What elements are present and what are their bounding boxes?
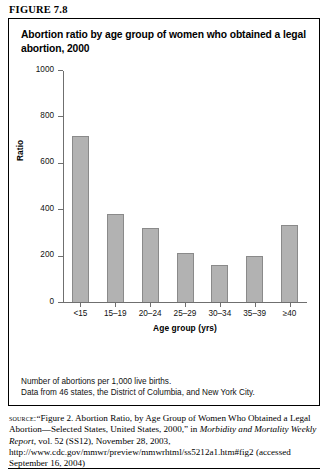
x-axis-tick-label: 25–29 bbox=[174, 309, 197, 318]
y-axis-tick-label: 800 bbox=[40, 111, 54, 120]
bar bbox=[211, 265, 228, 302]
bar bbox=[72, 136, 89, 302]
y-axis-tick: 0 bbox=[58, 302, 63, 303]
y-axis-tick: 200 bbox=[58, 256, 63, 257]
chart-plot-area: Ratio 02004006008001000 <1515–1920–2425–… bbox=[17, 65, 313, 333]
x-axis-tick bbox=[115, 303, 116, 307]
x-axis-tick bbox=[290, 303, 291, 307]
x-axis-tick bbox=[185, 303, 186, 307]
bar bbox=[142, 228, 159, 302]
y-axis-tick-label: 0 bbox=[49, 297, 54, 306]
bar bbox=[246, 256, 263, 302]
bar bbox=[107, 214, 124, 302]
bar bbox=[281, 225, 298, 302]
x-axis-tick-label: 30–34 bbox=[208, 309, 231, 318]
source-lead: source: bbox=[9, 414, 36, 423]
figure-label: FIGURE 7.8 bbox=[9, 3, 320, 16]
x-axis-title: Age group (yrs) bbox=[63, 323, 307, 333]
y-axis-tick: 800 bbox=[58, 116, 63, 117]
x-axis-tick-label: ≥40 bbox=[283, 309, 297, 318]
source-citation: source:“Figure 2. Abortion Ratio, by Age… bbox=[9, 413, 317, 469]
y-axis-tick-label: 400 bbox=[40, 204, 54, 213]
y-axis-tick: 1000 bbox=[58, 70, 63, 71]
x-axis-tick-label: <15 bbox=[73, 309, 87, 318]
chart-notes: Number of abortions per 1,000 live birth… bbox=[21, 376, 311, 399]
x-axis-tick-label: 20–24 bbox=[139, 309, 162, 318]
plot-canvas: 02004006008001000 bbox=[63, 71, 307, 303]
y-axis-line bbox=[63, 71, 64, 303]
x-axis-tick bbox=[255, 303, 256, 307]
note-line-2: Data from 46 states, the District of Col… bbox=[21, 387, 311, 399]
source-text-2: vol. 52 (SS12), November 28, 2003, http:… bbox=[9, 436, 291, 469]
bar bbox=[177, 253, 194, 302]
bottom-divider bbox=[8, 468, 320, 469]
note-line-1: Number of abortions per 1,000 live birth… bbox=[21, 376, 311, 388]
figure-page: FIGURE 7.8 Abortion ratio by age group o… bbox=[0, 0, 328, 476]
x-axis-tick-label: 15–19 bbox=[104, 309, 127, 318]
x-axis-tick-labels: <1515–1920–2425–2930–3435–39≥40 bbox=[63, 309, 307, 323]
y-axis-title: Ratio bbox=[15, 140, 25, 161]
y-axis-tick-label: 200 bbox=[40, 250, 54, 259]
y-axis-tick: 600 bbox=[58, 163, 63, 164]
y-axis-tick-label: 1000 bbox=[36, 65, 54, 74]
figure-box: Abortion ratio by age group of women who… bbox=[8, 18, 320, 406]
y-axis-tick-label: 600 bbox=[40, 157, 54, 166]
x-axis-tick bbox=[220, 303, 221, 307]
y-axis-tick: 400 bbox=[58, 209, 63, 210]
x-axis-tick bbox=[80, 303, 81, 307]
x-axis-tick bbox=[150, 303, 151, 307]
x-axis-tick-label: 35–39 bbox=[243, 309, 266, 318]
chart-title: Abortion ratio by age group of women who… bbox=[21, 28, 309, 55]
